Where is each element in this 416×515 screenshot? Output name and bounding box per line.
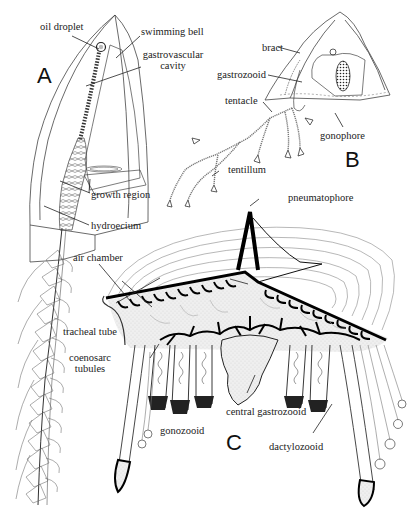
panel-letter-a: A <box>37 65 52 87</box>
illustration-drawing <box>0 0 416 515</box>
label-coenosarc-tubules-line1: coenosarc <box>58 352 122 363</box>
label-dactylozooid: dactylozooid <box>269 441 323 452</box>
label-gastrovascular-cavity-line2: cavity <box>139 60 207 71</box>
label-tracheal-tube: tracheal tube <box>63 326 117 337</box>
label-gastrovascular-cavity: gastrovascular cavity <box>139 49 207 71</box>
label-coenosarc-tubules-line2: tubules <box>58 363 122 374</box>
panel-letter-b: B <box>345 149 360 171</box>
label-gonozooid: gonozooid <box>160 425 204 436</box>
label-growth-region: growth region <box>91 189 150 200</box>
label-air-chamber: air chamber <box>73 252 123 263</box>
label-tentillum: tentillum <box>228 164 266 175</box>
panel-letter-c: C <box>226 432 242 454</box>
label-swimming-bell: swimming bell <box>141 26 204 37</box>
label-oil-droplet: oil droplet <box>40 21 83 32</box>
siphonophore-anatomy-figure: A B C oil droplet swimming bell gastrova… <box>0 0 416 515</box>
label-tentacle: tentacle <box>225 95 258 106</box>
label-bract: bract <box>262 42 283 53</box>
panel-c-drawing <box>103 212 406 506</box>
label-hydroecium: hydroecium <box>91 220 141 231</box>
label-gastrovascular-cavity-line1: gastrovascular <box>139 49 207 60</box>
label-central-gastrozooid: central gastrozooid <box>226 406 306 417</box>
label-coenosarc-tubules: coenosarc tubules <box>58 352 122 374</box>
label-gonophore: gonophore <box>320 130 365 141</box>
label-pneumatophore: pneumatophore <box>288 192 353 203</box>
label-gastrozooid: gastrozooid <box>217 69 266 80</box>
